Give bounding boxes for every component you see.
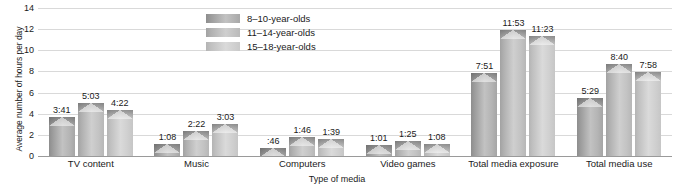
bar-value-label: 1:01 bbox=[370, 133, 388, 143]
bar-wrapper: 3:41 bbox=[49, 8, 75, 156]
bar[interactable] bbox=[78, 103, 104, 156]
bar-wrapper: 11:53 bbox=[500, 8, 526, 156]
x-axis-category-label: TV content bbox=[68, 158, 114, 169]
bar-top-shading bbox=[78, 103, 104, 112]
bar-top-shading bbox=[154, 144, 180, 153]
bar-top-shading bbox=[366, 145, 392, 154]
bar-top-shading bbox=[107, 110, 133, 119]
y-axis-tick-label: 12 bbox=[16, 24, 34, 34]
bar-wrapper: 5:03 bbox=[78, 8, 104, 156]
bar-wrapper: 7:58 bbox=[635, 8, 661, 156]
x-axis-category-label: Video games bbox=[380, 158, 435, 169]
bar[interactable] bbox=[424, 144, 450, 156]
legend: 8–10-year-olds11–14-year-olds15–18-year-… bbox=[206, 13, 316, 52]
bar-group: 3:415:034:22 bbox=[38, 8, 144, 156]
bar[interactable] bbox=[366, 145, 392, 156]
bar-value-label: :46 bbox=[267, 136, 280, 146]
bar-wrapper: 1:08 bbox=[154, 8, 180, 156]
bar-top-shading bbox=[183, 131, 209, 140]
bar-group: 1:011:251:08 bbox=[355, 8, 461, 156]
bar-value-label: 11:53 bbox=[503, 18, 525, 28]
plot-area: 02468101214 3:415:034:221:082:223:03:461… bbox=[38, 8, 672, 156]
bar[interactable] bbox=[395, 141, 421, 156]
bar-wrapper: 11:23 bbox=[529, 8, 555, 156]
y-axis-tick-label: 14 bbox=[16, 3, 34, 13]
bar-value-label: 8:40 bbox=[610, 52, 628, 62]
legend-item[interactable]: 8–10-year-olds bbox=[206, 13, 316, 24]
bar[interactable] bbox=[635, 72, 661, 156]
bar-value-label: 1:46 bbox=[293, 125, 311, 135]
y-axis-tick-label: 4 bbox=[16, 109, 34, 119]
y-axis-tick-label: 8 bbox=[16, 66, 34, 76]
x-axis-category-label: Total media use bbox=[586, 158, 653, 169]
legend-swatch bbox=[206, 28, 240, 37]
bar[interactable] bbox=[318, 139, 344, 156]
x-axis-category-label: Computers bbox=[279, 158, 325, 169]
bar[interactable] bbox=[500, 30, 526, 156]
bar-value-label: 3:41 bbox=[53, 105, 71, 115]
media-use-bar-chart: Average number of hours per day 02468101… bbox=[0, 0, 674, 196]
x-axis-title: Type of media bbox=[0, 174, 674, 184]
bar[interactable] bbox=[154, 144, 180, 156]
x-axis-category-label: Music bbox=[184, 158, 209, 169]
bar-wrapper: 1:08 bbox=[424, 8, 450, 156]
legend-item[interactable]: 15–18-year-olds bbox=[206, 41, 316, 52]
y-axis-tick-label: 0 bbox=[16, 151, 34, 161]
bar-value-label: 7:58 bbox=[639, 60, 657, 70]
bar-top-shading bbox=[424, 144, 450, 153]
bar-wrapper: 1:25 bbox=[395, 8, 421, 156]
bar-value-label: 3:03 bbox=[217, 112, 235, 122]
bar-top-shading bbox=[606, 64, 632, 73]
bar-value-label: 7:51 bbox=[476, 61, 494, 71]
bar-series-container: 3:415:034:221:082:223:03:461:461:391:011… bbox=[38, 8, 672, 156]
bar-group: 5:298:407:58 bbox=[566, 8, 672, 156]
bar[interactable] bbox=[260, 148, 286, 156]
bar[interactable] bbox=[183, 131, 209, 156]
axis-baseline bbox=[38, 156, 672, 157]
x-axis-category-labels: TV contentMusicComputersVideo gamesTotal… bbox=[38, 158, 672, 172]
bar-wrapper: 1:01 bbox=[366, 8, 392, 156]
legend-label: 11–14-year-olds bbox=[247, 27, 315, 38]
bar[interactable] bbox=[49, 117, 75, 156]
legend-label: 15–18-year-olds bbox=[247, 41, 316, 52]
y-axis-tick-label: 6 bbox=[16, 88, 34, 98]
bar-top-shading bbox=[395, 141, 421, 150]
bar[interactable] bbox=[471, 73, 497, 156]
bar-top-shading bbox=[500, 30, 526, 39]
y-axis-tick-label: 10 bbox=[16, 45, 34, 55]
bar-wrapper: 4:22 bbox=[107, 8, 133, 156]
y-axis-tick-label: 2 bbox=[16, 130, 34, 140]
bar-top-shading bbox=[49, 117, 75, 126]
legend-item[interactable]: 11–14-year-olds bbox=[206, 27, 316, 38]
bar-group: 7:5111:5311:23 bbox=[461, 8, 567, 156]
bar[interactable] bbox=[107, 110, 133, 156]
bar-top-shading bbox=[577, 98, 603, 107]
bar-value-label: 2:22 bbox=[188, 119, 206, 129]
bar-value-label: 1:25 bbox=[399, 129, 417, 139]
x-axis-category-label: Total media exposure bbox=[468, 158, 558, 169]
bar-wrapper: 1:39 bbox=[318, 8, 344, 156]
bar-value-label: 1:08 bbox=[428, 132, 446, 142]
bar-wrapper: 8:40 bbox=[606, 8, 632, 156]
bar-top-shading bbox=[635, 72, 661, 81]
bar-value-label: 5:29 bbox=[581, 86, 599, 96]
bar-top-shading bbox=[289, 137, 315, 146]
bar-top-shading bbox=[260, 148, 286, 156]
bar[interactable] bbox=[606, 64, 632, 156]
bar[interactable] bbox=[577, 98, 603, 156]
bar-value-label: 1:08 bbox=[159, 132, 177, 142]
bar-wrapper: 7:51 bbox=[471, 8, 497, 156]
bar-top-shading bbox=[471, 73, 497, 82]
bar-value-label: 11:23 bbox=[532, 24, 554, 34]
legend-swatch bbox=[206, 42, 240, 51]
bar-value-label: 4:22 bbox=[111, 98, 129, 108]
bar[interactable] bbox=[289, 137, 315, 156]
bar-top-shading bbox=[212, 124, 238, 133]
bar-wrapper: 5:29 bbox=[577, 8, 603, 156]
bar[interactable] bbox=[212, 124, 238, 156]
bar-top-shading bbox=[318, 139, 344, 148]
bar-value-label: 1:39 bbox=[322, 127, 340, 137]
bar[interactable] bbox=[529, 36, 555, 156]
bar-value-label: 5:03 bbox=[82, 91, 100, 101]
legend-swatch bbox=[206, 14, 240, 23]
